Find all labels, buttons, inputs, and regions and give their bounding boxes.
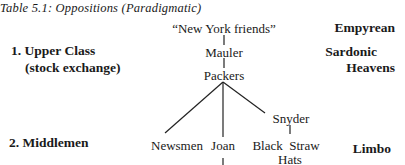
- node-mauler: Mauler: [205, 46, 243, 59]
- node-hats: Hats: [278, 153, 302, 165]
- connector-packers-snyder: [223, 82, 265, 113]
- node-snyder: Snyder: [273, 112, 310, 125]
- node-new-york-friends: “New York friends”: [172, 22, 276, 35]
- node-joan: Joan: [211, 139, 235, 152]
- node-packers: Packers: [204, 69, 244, 82]
- connector-packers-newsmen: [165, 82, 223, 133]
- node-black-straw: Black Straw: [252, 139, 319, 152]
- node-newsmen: Newsmen: [151, 139, 203, 152]
